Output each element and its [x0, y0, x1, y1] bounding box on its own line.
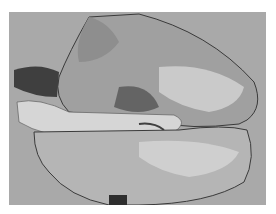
specimen-photo: [9, 12, 266, 205]
lung-specimen-illustration: [9, 12, 266, 205]
